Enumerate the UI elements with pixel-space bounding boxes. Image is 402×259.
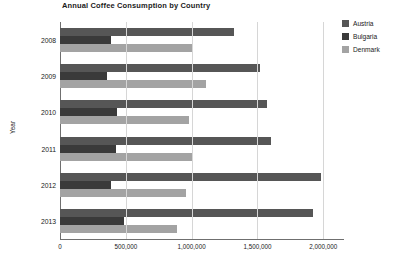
bar — [60, 181, 111, 189]
bar — [60, 36, 111, 44]
bar — [60, 217, 124, 225]
bar — [60, 64, 260, 72]
legend-swatch-icon — [342, 46, 349, 53]
legend-item[interactable]: Bulgaria — [342, 30, 380, 43]
bar — [60, 173, 321, 181]
bar — [60, 145, 116, 153]
y-group-label: 2011 — [41, 145, 56, 152]
legend-swatch-icon — [342, 33, 349, 40]
legend-item-label: Bulgaria — [353, 33, 377, 40]
x-tick-label: 2,000,000 — [309, 243, 337, 250]
bar — [60, 137, 271, 145]
y-group-label: 2012 — [41, 181, 56, 188]
bar — [60, 72, 107, 80]
x-tick-label: 0 — [58, 243, 62, 250]
y-group-label: 2013 — [41, 217, 56, 224]
legend-swatch-icon — [342, 20, 349, 27]
x-tick-label: 500,000 — [114, 243, 137, 250]
gridline — [126, 22, 127, 239]
y-group-label: 2009 — [41, 73, 56, 80]
bar — [60, 225, 177, 233]
bar — [60, 108, 117, 116]
legend: AustriaBulgariaDenmark — [342, 17, 380, 56]
y-group-label: 2010 — [41, 109, 56, 116]
x-tick-label: 1,000,000 — [178, 243, 206, 250]
gridline — [192, 22, 193, 239]
bar — [60, 189, 186, 197]
legend-item-label: Austria — [353, 20, 374, 27]
y-axis-title: Year — [9, 108, 16, 148]
bar — [60, 209, 313, 217]
gridline — [257, 22, 258, 239]
y-group-label: 2008 — [41, 37, 56, 44]
bar — [60, 28, 234, 36]
legend-item[interactable]: Austria — [342, 17, 380, 30]
x-tick-label: 1,500,000 — [243, 243, 271, 250]
legend-item-label: Denmark — [353, 46, 380, 53]
bar-chart: Annual Coffee Consumption by Country Yea… — [0, 0, 402, 259]
gridline — [323, 22, 324, 239]
bar — [60, 100, 267, 108]
plot-area — [60, 22, 343, 239]
bar — [60, 116, 189, 124]
chart-title: Annual Coffee Consumption by Country — [62, 1, 210, 10]
legend-item[interactable]: Denmark — [342, 43, 380, 56]
bar — [60, 80, 206, 88]
x-axis-line — [60, 239, 344, 240]
